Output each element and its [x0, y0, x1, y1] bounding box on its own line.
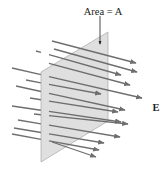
field-line-tail	[36, 51, 41, 52]
electric-flux-diagram: Area = A E	[0, 0, 168, 169]
field-line-tail	[26, 80, 41, 83]
field-line-tail	[16, 86, 41, 92]
area-label: Area = A	[84, 6, 123, 17]
field-line-tail	[34, 114, 41, 115]
field-line-tail	[12, 68, 41, 75]
field-line-tail	[18, 120, 41, 124]
field-lines-behind-plane	[12, 51, 41, 139]
field-line-tail	[12, 134, 41, 139]
field-label-e: E	[152, 102, 159, 113]
field-line-tail	[14, 128, 41, 133]
field-line-tail	[30, 98, 41, 100]
field-line-tail	[12, 106, 41, 110]
